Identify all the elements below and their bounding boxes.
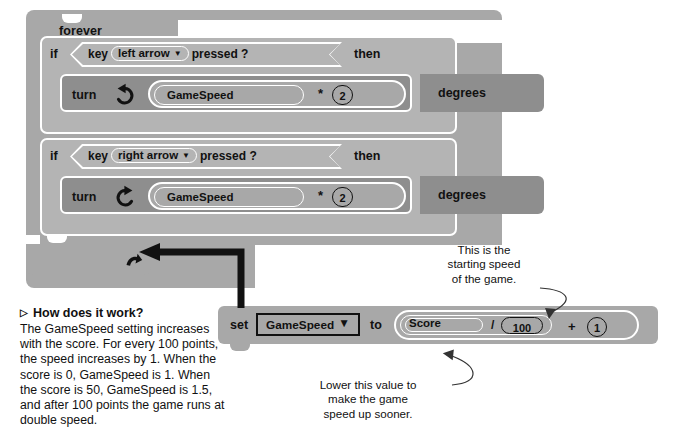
variable-label: GameSpeed [167,89,233,101]
then-label: then [354,47,380,61]
then-label: then [354,149,380,163]
how-does-it-work-section: ▷How does it work? The GameSpeed setting… [20,306,230,428]
number-value: 2 [339,90,345,102]
how-does-it-work-heading: ▷How does it work? [20,306,230,320]
if-label: if [50,47,58,61]
turn-label: turn [72,190,96,204]
turn-clockwise-icon [112,185,138,209]
variable-gamespeed-reporter[interactable]: GameSpeed [154,187,304,207]
set-label: set [230,318,248,332]
number-input-2[interactable]: 2 [332,85,353,105]
turn-counterclockwise-icon [112,83,138,107]
chevron-down-icon: ▼ [174,49,182,58]
divisor-value: 100 [513,322,531,334]
set-block-notch [230,344,250,351]
variable-gamespeed-reporter[interactable]: GameSpeed [154,85,304,105]
triangle-right-icon: ▷ [20,307,28,318]
set-variable-dropdown[interactable]: GameSpeed ▼ [256,313,360,336]
condition-suffix: pressed ? [192,47,249,61]
to-label: to [370,318,382,332]
multiply-symbol: * [318,86,323,101]
number-input-100[interactable]: 100 [501,317,543,334]
set-variable-block[interactable]: set GameSpeed ▼ to Score / 100 + 1 [218,306,658,344]
if-block-left-arrow[interactable]: if keyleft arrow▼pressed ? then turn Gam… [40,36,457,134]
condition-suffix: pressed ? [200,149,257,163]
number-value: 2 [339,192,345,204]
add-operator-block[interactable]: Score / 100 + 1 [394,310,639,340]
turn-label: turn [72,88,96,102]
chevron-down-icon: ▼ [182,151,190,160]
if-block-right-arrow[interactable]: if keyright arrow▼pressed ? then turn Ga… [40,138,457,236]
how-does-it-work-body: The GameSpeed setting increases with the… [20,322,230,428]
multiply-symbol: * [318,188,323,203]
chevron-down-icon: ▼ [338,316,350,330]
key-dropdown[interactable]: left arrow▼ [111,46,189,61]
degrees-label-tail: degrees [420,176,544,214]
forever-bottom-notch [47,235,67,243]
number-input-2[interactable]: 2 [332,187,353,207]
forever-top-notch [62,14,82,23]
addend-value: 1 [594,322,600,334]
key-pressed-condition[interactable]: keyleft arrow▼pressed ? [88,47,248,62]
key-dropdown-value: right arrow [118,149,178,161]
divide-symbol: / [491,318,494,332]
condition-prefix: key [88,47,108,61]
key-dropdown-value: left arrow [118,47,170,59]
script-illustration: forever if keyleft arrow▼pressed ? then … [0,0,678,441]
key-dropdown[interactable]: right arrow▼ [111,148,197,163]
plus-symbol: + [568,319,576,334]
multiply-operator-block[interactable]: GameSpeed * 2 [148,80,406,108]
annotation-starting-speed: This is thestarting speedof the game. [423,243,545,286]
turn-block[interactable]: turn GameSpeed * 2 [60,74,412,112]
forever-bottom-gap [26,235,40,244]
degrees-label: degrees [438,188,486,202]
turn-block[interactable]: turn GameSpeed * 2 [60,176,412,214]
heading-text: How does it work? [33,306,143,320]
set-variable-value: GameSpeed [266,318,334,332]
score-label: Score [409,317,441,329]
if-label: if [50,149,58,163]
loop-back-arrow-icon [123,250,145,272]
divide-operator-block[interactable]: Score / 100 [400,315,552,335]
degrees-label-tail: degrees [420,74,544,112]
number-input-1[interactable]: 1 [587,317,607,337]
degrees-label: degrees [438,86,486,100]
condition-prefix: key [88,149,108,163]
key-pressed-condition[interactable]: keyright arrow▼pressed ? [88,149,257,164]
variable-label: GameSpeed [167,191,233,203]
multiply-operator-block[interactable]: GameSpeed * 2 [148,182,406,210]
annotation-lower-this-value: Lower this value tomake the gamespeed up… [288,378,448,421]
